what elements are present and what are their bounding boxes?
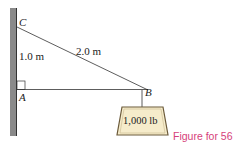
figure-caption: Figure for 56 bbox=[173, 131, 233, 142]
right-angle-marker bbox=[17, 81, 25, 90]
wall bbox=[10, 8, 16, 136]
label-point-b: B bbox=[145, 87, 152, 98]
label-vertical-length: 1.0 m bbox=[19, 51, 44, 62]
diagram-canvas bbox=[0, 0, 241, 147]
label-point-c: C bbox=[19, 17, 26, 28]
weight-label: 1,000 lb bbox=[123, 116, 157, 127]
label-point-a: A bbox=[19, 92, 26, 103]
label-diagonal-length: 2.0 m bbox=[76, 46, 101, 57]
